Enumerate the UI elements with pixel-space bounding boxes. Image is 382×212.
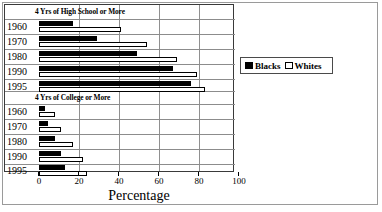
bar-col-1980-whites: [39, 142, 73, 147]
xtick-label-20: 20: [64, 176, 94, 186]
category-separator: [5, 119, 235, 120]
bar-hs-1970-blacks: [39, 36, 97, 41]
legend-label-whites: Whites: [295, 61, 322, 71]
category-separator: [5, 49, 235, 50]
panel-caption-high-school: 4 Yrs of High School or More: [35, 7, 125, 16]
xtick-label-100: 100: [224, 176, 254, 186]
chart-screenshot: 4 Yrs of High School or More 1960 1970 1…: [0, 0, 382, 212]
ylabel-col-1980: 1980: [7, 136, 39, 147]
ylabel-hs-1995: 1995: [7, 81, 39, 92]
legend-item-blacks: Blacks: [245, 61, 281, 71]
category-separator: [5, 79, 235, 80]
bar-col-1960-whites: [39, 112, 55, 117]
xtick-label-40: 40: [104, 176, 134, 186]
ylabel-col-1995: 1995: [7, 165, 39, 176]
ylabel-hs-1980: 1980: [7, 51, 39, 62]
xtick-label-0: 0: [24, 176, 54, 186]
category-separator: [5, 64, 235, 65]
plot-area: 4 Yrs of High School or More 1960 1970 1…: [4, 4, 234, 172]
category-separator: [5, 134, 235, 135]
category-separator: [5, 34, 235, 35]
panel-caption-college: 4 Yrs of College or More: [35, 93, 110, 102]
bar-hs-1970-whites: [39, 42, 147, 47]
bar-hs-1960-blacks: [39, 21, 73, 26]
bar-col-1990-whites: [39, 157, 83, 162]
category-separator: [5, 19, 235, 20]
ylabel-hs-1970: 1970: [7, 36, 39, 47]
bar-hs-1980-whites: [39, 57, 177, 62]
legend-item-whites: Whites: [285, 61, 322, 71]
legend: Blacks Whites: [240, 57, 333, 74]
ylabel-hs-1960: 1960: [7, 21, 39, 32]
bar-col-1970-whites: [39, 127, 61, 132]
bar-col-1960-blacks: [39, 106, 45, 111]
bar-hs-1995-whites: [39, 87, 205, 92]
bar-col-1990-blacks: [39, 151, 61, 156]
bar-hs-1960-whites: [39, 27, 121, 32]
legend-label-blacks: Blacks: [255, 61, 281, 71]
bar-hs-1990-blacks: [39, 66, 173, 71]
xtick-label-80: 80: [184, 176, 214, 186]
bar-hs-1980-blacks: [39, 51, 137, 56]
x-axis-title: Percentage: [64, 188, 214, 204]
xtick-label-60: 60: [144, 176, 174, 186]
ylabel-col-1990: 1990: [7, 151, 39, 162]
bar-hs-1995-blacks: [39, 81, 191, 86]
ylabel-col-1960: 1960: [7, 106, 39, 117]
ylabel-hs-1990: 1990: [7, 66, 39, 77]
legend-swatch-blacks-icon: [245, 62, 253, 69]
bar-col-1980-blacks: [39, 136, 55, 141]
category-separator: [5, 104, 235, 105]
bar-col-1970-blacks: [39, 121, 48, 126]
bar-col-1995-blacks: [39, 165, 65, 170]
legend-swatch-whites-icon: [285, 62, 293, 69]
ylabel-col-1970: 1970: [7, 121, 39, 132]
bar-hs-1990-whites: [39, 72, 197, 77]
category-separator: [5, 149, 235, 150]
